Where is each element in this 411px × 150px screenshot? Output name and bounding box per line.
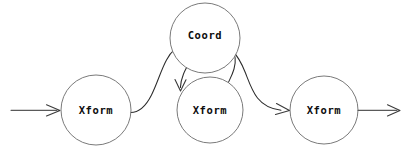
node-xform-middle[interactable]: Xform xyxy=(177,77,243,143)
coord-to-right-arrow-head xyxy=(276,104,290,115)
coord-top-label: Coord xyxy=(188,29,223,41)
node-xform-right[interactable]: Xform xyxy=(290,76,358,144)
xform-right-label: Xform xyxy=(307,104,342,116)
node-xform-left[interactable]: Xform xyxy=(61,75,131,145)
edge-output-arrow xyxy=(358,105,400,116)
diagram-canvas: Xform Coord Xform Xform xyxy=(0,0,411,150)
xform-left-label: Xform xyxy=(79,104,114,116)
edge-input-arrow xyxy=(11,105,60,116)
xform-middle-label: Xform xyxy=(193,104,228,116)
diagram-svg: Xform Coord Xform Xform xyxy=(0,0,411,150)
node-coord-top[interactable]: Coord xyxy=(170,3,240,73)
